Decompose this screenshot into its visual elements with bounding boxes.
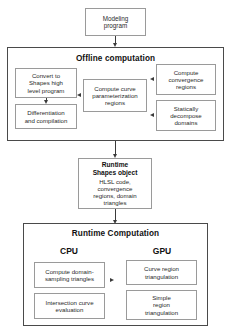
compute-convergence-regions-box: Computeconvergenceregions (156, 64, 216, 95)
pipeline-diagram: Modelingprogram Offline computation Conv… (0, 0, 231, 331)
gpu-column-label: GPU (116, 246, 208, 256)
runtime-shapes-object-title: RuntimeShapes object (93, 161, 138, 176)
intersection-curve-evaluation-box: Intersection curveevaluation (34, 293, 105, 319)
compute-domain-sampling-triangles-box: Compute domain-sampling triangles (34, 262, 105, 288)
modeling-program-box: Modelingprogram (85, 8, 146, 36)
runtime-shapes-object-box: RuntimeShapes object HLSL code,convergen… (78, 158, 152, 209)
cpu-column-label: CPU (23, 246, 115, 256)
convert-to-shapes-box: Convert toShapes highlevel program (15, 68, 77, 98)
simple-region-triangulation-box: Simpleregiontriangulation (126, 290, 197, 320)
statically-decompose-domains-box: Staticallydecomposedomains (156, 100, 216, 131)
differentiation-compilation-box: Differentiationand compilation (15, 104, 77, 129)
offline-computation-title: Offline computation (0, 54, 231, 63)
curve-region-triangulation-box: Curve regiontriangulation (126, 260, 197, 285)
runtime-computation-title: Runtime Computation (0, 229, 231, 238)
compute-curve-parameterization-box: Compute curveparameterizationregions (83, 79, 147, 112)
runtime-shapes-object-details: HLSL code,convergenceregions, domaintria… (93, 178, 136, 206)
